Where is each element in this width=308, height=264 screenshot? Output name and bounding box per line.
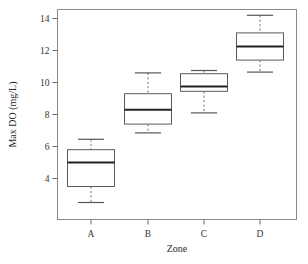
y-tick-label: 6 bbox=[45, 142, 50, 152]
box-b bbox=[125, 73, 172, 133]
y-tick-label: 8 bbox=[45, 110, 50, 120]
y-axis-title: Max DO (mg/L) bbox=[7, 81, 19, 147]
y-tick-label: 10 bbox=[40, 78, 50, 88]
x-axis-ticks: ABCD bbox=[88, 220, 264, 239]
y-tick-label: 14 bbox=[40, 14, 50, 24]
x-tick-label-b: B bbox=[145, 229, 151, 239]
x-axis-title: Zone bbox=[167, 243, 188, 254]
y-tick-label: 4 bbox=[45, 174, 50, 184]
box-plot-chart: 468101214 ABCD ZoneMax DO (mg/L) bbox=[0, 0, 308, 264]
x-tick-label-c: C bbox=[201, 229, 207, 239]
plot-canvas: 468101214 ABCD ZoneMax DO (mg/L) bbox=[0, 0, 308, 264]
box-iqr bbox=[181, 74, 228, 92]
box-series bbox=[68, 15, 284, 202]
x-tick-label-d: D bbox=[257, 229, 264, 239]
box-iqr bbox=[68, 150, 115, 187]
box-d bbox=[237, 15, 284, 72]
y-axis-ticks: 468101214 bbox=[40, 14, 58, 184]
box-c bbox=[181, 71, 228, 113]
y-tick-label: 12 bbox=[40, 46, 50, 56]
box-a bbox=[68, 139, 115, 202]
x-tick-label-a: A bbox=[88, 229, 95, 239]
